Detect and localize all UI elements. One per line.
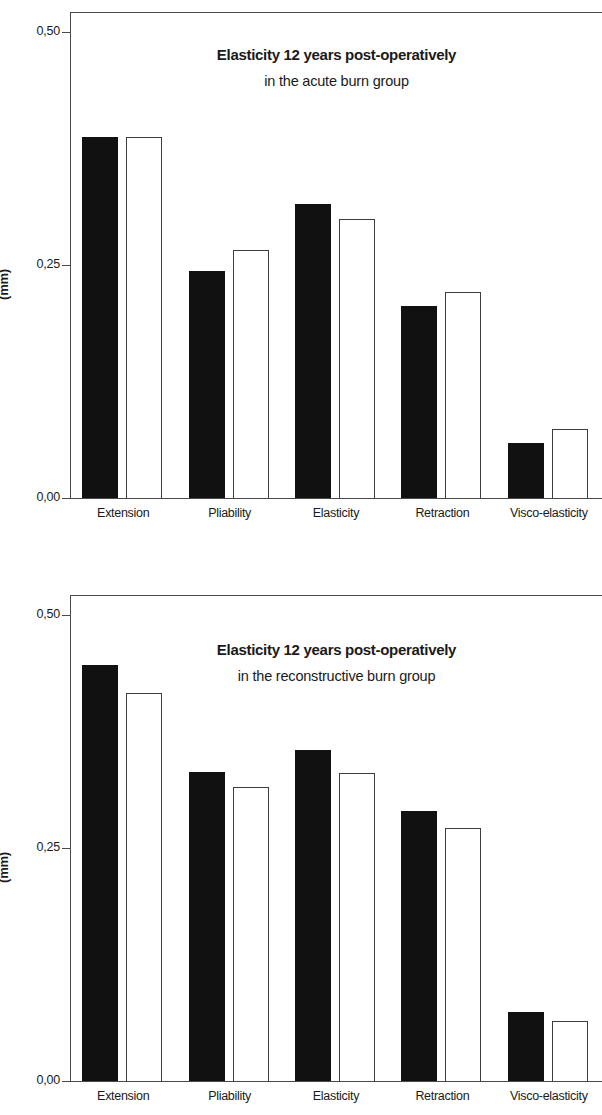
y-tick-mark [62, 848, 70, 849]
y-axis-title-acute: (mm) [0, 269, 11, 300]
chart-subtitle-acute: in the acute burn group [71, 73, 602, 89]
bar-elasticity-white-bar [339, 773, 375, 1082]
chart-panel-reconstructive: Elasticity 12 years post-operatively in … [0, 555, 602, 1115]
bar-elasticity-black-bar [295, 750, 331, 1082]
y-tick-mark [62, 32, 70, 33]
chart-subtitle-reconstructive: in the reconstructive burn group [71, 668, 602, 684]
bar-pliability-white-bar [233, 250, 269, 499]
y-axis-title-reconstructive: (mm) [0, 852, 11, 883]
bar-visco-elasticity-white-bar [552, 429, 588, 499]
category-labels-acute: ExtensionPliabilityElasticityRetractionV… [70, 506, 602, 528]
bar-extension-black-bar [82, 665, 118, 1082]
bar-pliability-white-bar [233, 787, 269, 1082]
y-tick-label: 0,25 [36, 257, 60, 271]
bar-pliability-black-bar [189, 271, 225, 499]
bar-pliability-black-bar [189, 772, 225, 1082]
category-label-retraction: Retraction [389, 1089, 495, 1103]
chart-title-acute: Elasticity 12 years post-operatively [71, 46, 602, 63]
y-tick-label: 0,00 [36, 490, 60, 504]
category-label-pliability: Pliability [176, 1089, 282, 1103]
category-labels-reconstructive: ExtensionPliabilityElasticityRetractionV… [70, 1089, 602, 1111]
y-tick-025-acute: 0,25 [22, 265, 70, 266]
y-tick-050-acute: 0,50 [22, 32, 70, 33]
y-tick-025-reconstructive: 0,25 [22, 848, 70, 849]
bar-visco-elasticity-black-bar [508, 1012, 544, 1082]
y-tick-label: 0,50 [36, 24, 60, 38]
plot-area-reconstructive: Elasticity 12 years post-operatively in … [70, 595, 602, 1081]
category-label-extension: Extension [70, 506, 176, 520]
y-tick-label: 0,25 [36, 840, 60, 854]
y-tick-mark [62, 1081, 70, 1082]
bar-retraction-black-bar [401, 811, 437, 1082]
bar-retraction-white-bar [445, 292, 481, 499]
bar-retraction-black-bar [401, 306, 437, 499]
x-axis-line-acute [70, 498, 602, 499]
y-tick-mark [62, 615, 70, 616]
x-axis-line-reconstructive [70, 1081, 602, 1082]
bar-visco-elasticity-white-bar [552, 1021, 588, 1082]
y-tick-label: 0,00 [36, 1073, 60, 1087]
category-label-extension: Extension [70, 1089, 176, 1103]
chart-title-reconstructive: Elasticity 12 years post-operatively [71, 641, 602, 658]
bar-visco-elasticity-black-bar [508, 443, 544, 499]
chart-panel-acute: Elasticity 12 years post-operatively in … [0, 0, 602, 555]
bar-elasticity-white-bar [339, 219, 375, 499]
y-tick-mark [62, 265, 70, 266]
plot-area-acute: Elasticity 12 years post-operatively in … [70, 12, 602, 499]
bar-extension-black-bar [82, 137, 118, 499]
y-tick-label: 0,50 [36, 607, 60, 621]
bar-extension-white-bar [126, 693, 162, 1082]
category-label-visco-elasticity: Visco-elasticity [496, 1089, 602, 1103]
y-tick-000-acute: 0,00 [22, 498, 70, 499]
bar-retraction-white-bar [445, 828, 481, 1082]
category-label-elasticity: Elasticity [283, 506, 389, 520]
category-label-retraction: Retraction [389, 506, 495, 520]
category-label-visco-elasticity: Visco-elasticity [496, 506, 602, 520]
y-tick-000-reconstructive: 0,00 [22, 1081, 70, 1082]
category-label-elasticity: Elasticity [283, 1089, 389, 1103]
bar-extension-white-bar [126, 137, 162, 499]
category-label-pliability: Pliability [176, 506, 282, 520]
bar-elasticity-black-bar [295, 204, 331, 499]
y-tick-050-reconstructive: 0,50 [22, 615, 70, 616]
y-tick-mark [62, 498, 70, 499]
